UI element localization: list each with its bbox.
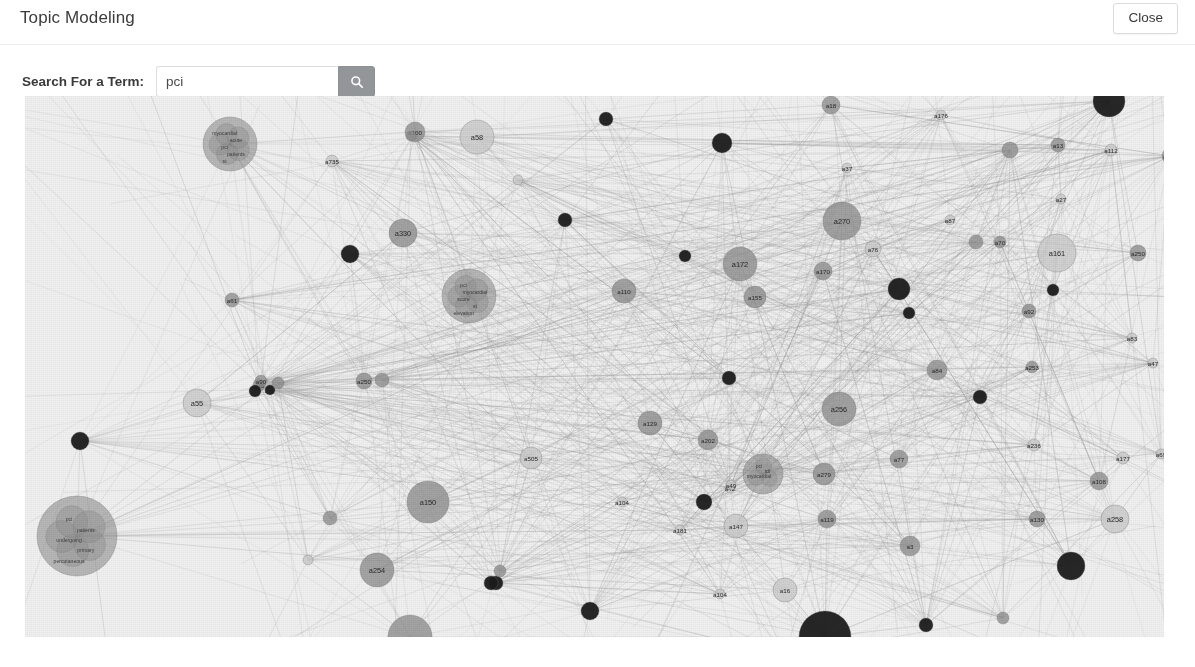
node-circle[interactable] xyxy=(814,262,832,280)
node-circle[interactable] xyxy=(513,175,523,185)
node-circle[interactable] xyxy=(1156,449,1164,459)
node-circle[interactable] xyxy=(1130,245,1146,261)
node-circle[interactable] xyxy=(1127,333,1137,343)
node-circle[interactable] xyxy=(823,202,861,240)
node-circle[interactable] xyxy=(822,96,840,114)
node-circle[interactable] xyxy=(715,589,725,599)
graph-node[interactable]: a279 xyxy=(813,463,835,485)
graph-node[interactable]: pcipatientsundergoingprimarypercutaneous xyxy=(37,496,117,576)
graph-node[interactable]: pcitdimyocardial xyxy=(743,454,783,494)
node-circle[interactable] xyxy=(1090,472,1108,490)
node-circle[interactable] xyxy=(712,133,732,153)
node-circle[interactable] xyxy=(927,360,947,380)
graph-node[interactable] xyxy=(919,618,933,632)
topic-network-graph[interactable]: a137a55a61a35a07a90myocardialacutepcipat… xyxy=(25,96,1164,637)
node-circle[interactable] xyxy=(494,565,506,577)
graph-node[interactable]: a18 xyxy=(822,96,840,114)
graph-node[interactable]: a155 xyxy=(744,286,766,308)
graph-node[interactable]: a170 xyxy=(712,133,732,153)
node-circle[interactable] xyxy=(599,112,613,126)
graph-node[interactable] xyxy=(272,377,284,389)
graph-node[interactable] xyxy=(323,511,337,525)
graph-node[interactable] xyxy=(494,565,506,577)
node-circle[interactable] xyxy=(520,447,542,469)
graph-node[interactable]: a172 xyxy=(723,247,757,281)
node-circle[interactable] xyxy=(865,241,881,257)
graph-node[interactable]: a13 xyxy=(1051,138,1065,152)
node-circle[interactable] xyxy=(484,576,498,590)
node-circle[interactable] xyxy=(225,293,239,307)
graph-node[interactable] xyxy=(341,245,359,263)
node-circle[interactable] xyxy=(679,250,691,262)
node-circle[interactable] xyxy=(460,120,494,154)
graph-node[interactable]: a258 xyxy=(1101,505,1129,533)
graph-node[interactable]: a330 xyxy=(389,219,417,247)
graph-node[interactable] xyxy=(903,307,915,319)
node-circle[interactable] xyxy=(1002,142,1018,158)
graph-node[interactable]: a250 xyxy=(1130,245,1146,261)
close-button[interactable]: Close xyxy=(1113,3,1178,34)
graph-node[interactable]: a92 xyxy=(1022,304,1036,318)
graph-node[interactable]: a48 xyxy=(888,278,910,300)
node-circle[interactable] xyxy=(1029,511,1045,527)
node-circle[interactable] xyxy=(638,411,662,435)
node-circle[interactable] xyxy=(919,618,933,632)
node-circle[interactable] xyxy=(356,373,372,389)
node-circle[interactable] xyxy=(724,514,748,538)
graph-node[interactable]: a58 xyxy=(460,120,494,154)
graph-node[interactable] xyxy=(249,385,261,397)
node-circle[interactable] xyxy=(1117,452,1129,464)
graph-node[interactable]: a137 xyxy=(71,432,89,450)
node-circle[interactable] xyxy=(1101,505,1129,533)
node-circle[interactable] xyxy=(1051,138,1065,152)
graph-node[interactable]: a110 xyxy=(612,279,636,303)
graph-node[interactable]: a240 xyxy=(696,494,712,510)
graph-node[interactable]: a262 xyxy=(1057,552,1085,580)
node-circle[interactable] xyxy=(773,578,797,602)
graph-node[interactable]: a129 xyxy=(638,411,662,435)
graph-node[interactable]: a256 xyxy=(822,392,856,426)
node-circle[interactable] xyxy=(903,307,915,319)
node-circle[interactable] xyxy=(375,373,389,387)
node-circle[interactable] xyxy=(406,131,416,141)
node-circle[interactable] xyxy=(818,510,836,528)
graph-node[interactable]: a170 xyxy=(814,262,832,280)
graph-node[interactable]: a161 xyxy=(1038,234,1076,272)
node-circle[interactable] xyxy=(272,377,284,389)
graph-node[interactable]: a76 xyxy=(865,241,881,257)
graph-node[interactable] xyxy=(599,112,613,126)
node-circle[interactable] xyxy=(726,480,736,490)
graph-node[interactable]: a270 xyxy=(581,602,599,620)
node-circle[interactable] xyxy=(744,286,766,308)
node-circle[interactable] xyxy=(303,555,313,565)
node-circle[interactable] xyxy=(723,247,757,281)
node-circle[interactable] xyxy=(581,602,599,620)
graph-node[interactable]: a84 xyxy=(927,360,947,380)
node-circle[interactable] xyxy=(890,450,908,468)
graph-node[interactable]: a150 xyxy=(407,481,449,523)
node-circle[interactable] xyxy=(407,481,449,523)
node-circle[interactable] xyxy=(722,371,736,385)
node-circle[interactable] xyxy=(71,432,89,450)
graph-node[interactable] xyxy=(722,371,736,385)
graph-node[interactable]: a16 xyxy=(773,578,797,602)
search-input[interactable] xyxy=(156,66,338,97)
graph-node[interactable] xyxy=(558,213,572,227)
node-circle[interactable] xyxy=(323,511,337,525)
graph-node[interactable] xyxy=(997,612,1009,624)
node-circle[interactable] xyxy=(1057,552,1085,580)
graph-node[interactable]: a108 xyxy=(1090,472,1108,490)
node-circle[interactable] xyxy=(1105,144,1117,156)
graph-node[interactable]: a254 xyxy=(360,553,394,587)
graph-node[interactable] xyxy=(303,555,313,565)
node-circle[interactable] xyxy=(813,463,835,485)
graph-node[interactable]: a202 xyxy=(698,430,718,450)
node-circle[interactable] xyxy=(900,536,920,556)
node-circle[interactable] xyxy=(842,163,852,173)
graph-node[interactable]: a70 xyxy=(994,236,1006,248)
graph-node[interactable]: pcimyocardialscorestelevation xyxy=(442,269,496,323)
node-circle[interactable] xyxy=(1028,439,1040,451)
graph-node[interactable]: a147 xyxy=(724,514,748,538)
graph-node[interactable]: myocardialacutepcipatientsst xyxy=(203,117,257,171)
node-circle[interactable] xyxy=(249,385,261,397)
